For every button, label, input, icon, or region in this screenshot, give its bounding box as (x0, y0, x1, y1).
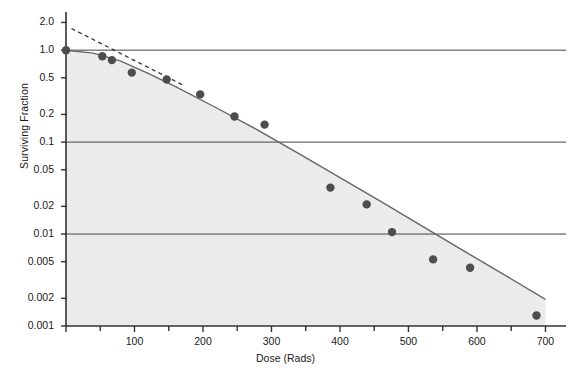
x-tick-label: 200 (178, 335, 228, 347)
data-point (532, 311, 540, 319)
curve-shaded-area (66, 50, 546, 326)
survival-curve-plot (0, 0, 571, 371)
y-tick-label: 2.0 (0, 15, 54, 27)
data-point (466, 264, 474, 272)
data-point (230, 112, 238, 120)
x-tick-label: 300 (246, 335, 296, 347)
y-tick-label: 0.002 (0, 291, 54, 303)
data-point (108, 56, 116, 64)
data-point (260, 120, 268, 128)
y-tick-label: 0.05 (0, 163, 54, 175)
y-tick-label: 0.5 (0, 71, 54, 83)
data-point (163, 75, 171, 83)
x-axis-title: Dose (Rads) (0, 352, 571, 364)
y-tick-label: 0.2 (0, 107, 54, 119)
y-tick-label: 0.001 (0, 319, 54, 331)
data-point (388, 228, 396, 236)
data-point (62, 46, 70, 54)
x-tick-label: 400 (315, 335, 365, 347)
x-tick-label: 500 (383, 335, 433, 347)
y-tick-label: 1.0 (0, 43, 54, 55)
data-point (429, 255, 437, 263)
data-point (128, 68, 136, 76)
data-point (98, 52, 106, 60)
y-tick-label: 0.01 (0, 227, 54, 239)
x-tick-label: 700 (520, 335, 570, 347)
x-tick-label: 600 (452, 335, 502, 347)
y-tick-label: 0.005 (0, 255, 54, 267)
x-axis-ticks (66, 326, 545, 332)
y-tick-label: 0.02 (0, 199, 54, 211)
x-tick-label: 100 (109, 335, 159, 347)
data-point (326, 183, 334, 191)
data-point (196, 90, 204, 98)
data-point (363, 200, 371, 208)
y-tick-label: 0.1 (0, 135, 54, 147)
chart-figure: Surviving Fraction Dose (Rads) 2.01.00.5… (0, 0, 571, 371)
